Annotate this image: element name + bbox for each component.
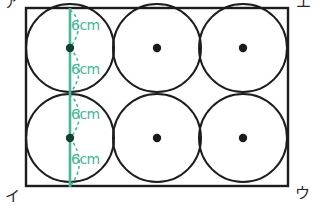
figure-canvas <box>0 0 317 209</box>
center-dot-bottom-right <box>239 134 247 142</box>
measure-label-segment-3: 6cm <box>71 107 100 121</box>
vertex-label-bottom-left: イ <box>5 189 20 204</box>
vertex-label-top-right: エ <box>296 0 311 10</box>
measure-label-segment-4: 6cm <box>71 152 100 166</box>
measure-label-segment-2: 6cm <box>71 62 100 76</box>
outer-rectangle <box>26 8 288 186</box>
center-dot-top-middle <box>153 44 161 52</box>
geometry-figure: ア エ イ ウ 6cm 6cm 6cm 6cm <box>0 0 317 209</box>
center-dot-top-right <box>239 44 247 52</box>
measure-label-segment-1: 6cm <box>71 18 100 32</box>
vertex-label-top-left: ア <box>4 0 19 10</box>
center-dot-top-left <box>66 44 74 52</box>
center-dot-bottom-left <box>66 134 74 142</box>
vertex-label-bottom-right: ウ <box>295 186 310 201</box>
center-dot-bottom-middle <box>153 134 161 142</box>
